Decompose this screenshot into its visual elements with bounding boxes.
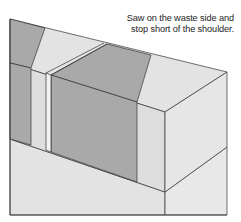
caption: Saw on the waste side and stop short of …	[98, 13, 234, 35]
caption-line-2: stop short of the shoulder.	[98, 24, 234, 35]
saw-kerf	[46, 73, 51, 152]
caption-line-1: Saw on the waste side and	[98, 13, 234, 24]
waste-front-left	[10, 63, 31, 145]
